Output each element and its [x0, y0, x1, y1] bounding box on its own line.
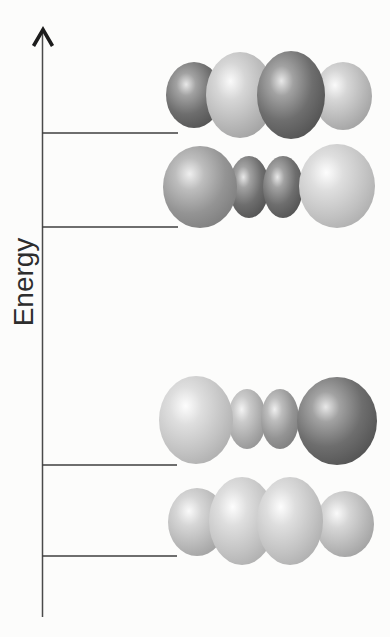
- orbital-lobe-medium: [261, 389, 299, 449]
- orbital-level-3: [42, 144, 375, 228]
- diagram-canvas: Energy: [0, 0, 390, 637]
- orbital-lobe-dark: [263, 156, 303, 218]
- orbital-lobe-medium: [163, 146, 237, 228]
- orbital-lobe-lightmed: [228, 389, 266, 449]
- orbital-lobe-dark: [297, 377, 377, 465]
- mo-energy-diagram: Energy: [0, 0, 390, 637]
- orbital-levels: [42, 51, 377, 565]
- axis-label: Energy: [8, 238, 39, 327]
- orbital-lobe-lighter: [159, 376, 233, 464]
- orbital-level-4-highest: [42, 51, 372, 139]
- energy-axis: Energy: [8, 30, 53, 618]
- orbital-level-1-lowest: [42, 477, 374, 565]
- orbital-lobe-lighter: [299, 144, 375, 228]
- orbital-level-2: [42, 376, 377, 465]
- orbital-lobe-dark: [257, 51, 325, 139]
- orbital-lobe-lighter: [257, 477, 323, 565]
- orbital-lobe-light: [316, 491, 374, 557]
